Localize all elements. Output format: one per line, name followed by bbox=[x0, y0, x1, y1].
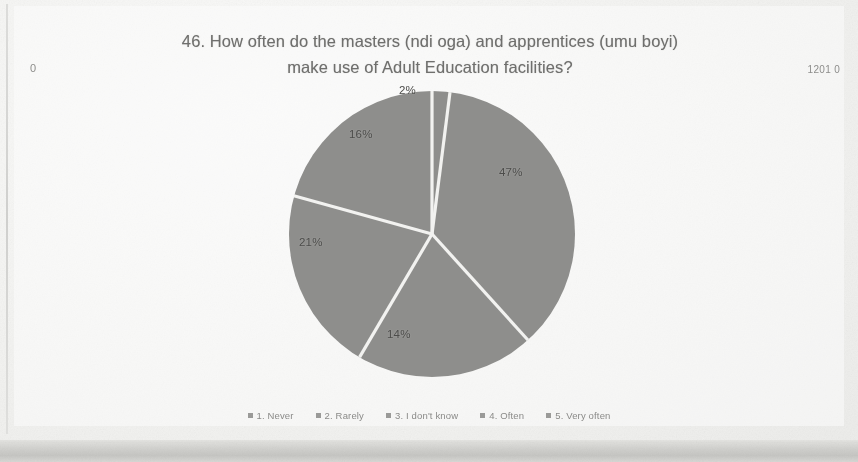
legend-item-rarely: 2. Rarely bbox=[316, 410, 364, 421]
legend-label-never: 1. Never bbox=[257, 410, 294, 421]
chart-title-line-2: make use of Adult Education facilities? bbox=[100, 54, 760, 80]
legend-item-very-often: 5. Very often bbox=[546, 410, 610, 421]
scan-edge-bottom bbox=[0, 440, 858, 462]
chart-legend: 1. Never 2. Rarely 3. I don't know 4. Of… bbox=[0, 410, 858, 421]
pie-label-very-often: 16% bbox=[349, 128, 373, 140]
pie-label-never: 2% bbox=[399, 84, 416, 96]
chart-title: 46. How often do the masters (ndi oga) a… bbox=[100, 28, 760, 80]
legend-swatch-icon bbox=[546, 413, 551, 418]
corner-number-right: 1201 0 bbox=[808, 64, 840, 75]
legend-label-dont-know: 3. I don't know bbox=[395, 410, 458, 421]
chart-title-line-1: 46. How often do the masters (ndi oga) a… bbox=[100, 28, 760, 54]
pie-chart: 2% 47% 14% 21% 16% bbox=[287, 88, 577, 380]
scanned-chart-page: 0 1201 0 46. How often do the masters (n… bbox=[0, 0, 858, 462]
legend-item-dont-know: 3. I don't know bbox=[386, 410, 458, 421]
legend-item-never: 1. Never bbox=[248, 410, 294, 421]
pie-label-dont-know: 14% bbox=[387, 328, 411, 340]
legend-swatch-icon bbox=[386, 413, 391, 418]
legend-item-often: 4. Often bbox=[480, 410, 524, 421]
scan-edge-left bbox=[6, 4, 8, 434]
legend-swatch-icon bbox=[480, 413, 485, 418]
pie-label-often: 21% bbox=[299, 236, 323, 248]
pie-label-rarely: 47% bbox=[499, 166, 523, 178]
pie-chart-svg bbox=[287, 88, 577, 380]
legend-label-very-often: 5. Very often bbox=[555, 410, 610, 421]
legend-swatch-icon bbox=[316, 413, 321, 418]
corner-number-left: 0 bbox=[30, 62, 36, 74]
legend-swatch-icon bbox=[248, 413, 253, 418]
legend-label-rarely: 2. Rarely bbox=[325, 410, 364, 421]
legend-label-often: 4. Often bbox=[489, 410, 524, 421]
